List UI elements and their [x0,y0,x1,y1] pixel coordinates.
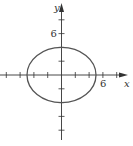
y-tick-label: 6 [51,28,57,39]
axes [0,3,128,140]
x-axis-arrow-icon [119,73,128,78]
ellipse-plot: 66xy [0,0,133,146]
y-axis-label: y [53,2,60,13]
y-axis-arrow-icon [59,3,64,12]
x-tick-label: 6 [100,78,106,89]
x-axis-label: x [124,78,130,89]
labels: 66xy [51,2,131,89]
